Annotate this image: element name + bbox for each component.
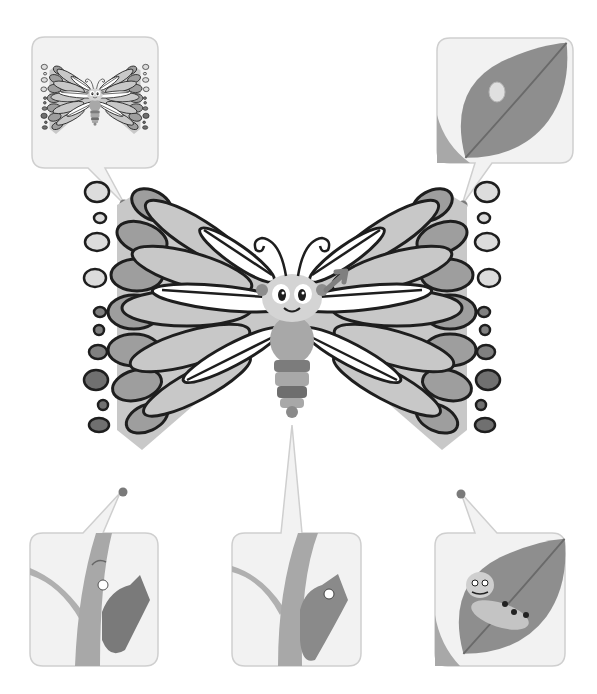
butterfly-adult-main [84,182,500,450]
stage-panel-chrysalis [232,425,361,666]
stage-panel-caterpillar [435,490,565,667]
life-cycle-diagram [0,0,597,694]
stage-panel-emerging [30,488,158,667]
connector-dot [457,490,466,499]
connector-dot [119,488,128,497]
egg-icon [489,82,505,102]
stage-panel-egg [437,38,573,210]
